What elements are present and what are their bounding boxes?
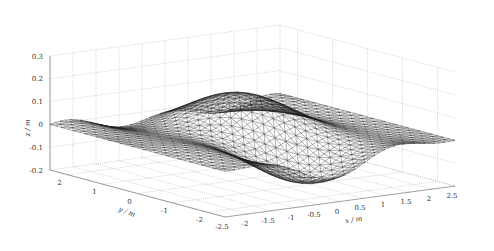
x-axis-label: x / m [344,215,363,226]
y-tick-label: 1 [92,188,96,196]
surface-mesh [50,92,455,183]
z-axis-label: z / m [24,119,32,137]
x-tick-label: -2 [242,220,249,228]
y-axis-label: y / m [116,205,136,219]
y-tick-label: -2 [196,216,203,224]
surface-plot: 0.30.20.10-0.1-0.2210-1-2-2.5-2-1.5-1-0.… [0,0,494,251]
y-tick-label: 0 [127,198,131,206]
y-tick-label: 2 [57,179,61,187]
x-tick-label: 1 [381,201,385,209]
x-tick-label: 1.5 [400,198,411,206]
x-tick-label: -1 [288,214,295,222]
z-tick-label: 0.1 [32,98,43,106]
z-tick-label: 0 [39,121,43,129]
x-tick-label: -0.5 [307,211,321,219]
x-tick-label: -2.5 [215,223,229,231]
z-tick-label: 0.2 [32,75,43,83]
z-tick-label: 0.3 [32,53,43,61]
x-tick-label: 2 [427,195,431,203]
z-tick-label: -0.1 [30,144,44,152]
x-tick-label: 0 [335,208,339,216]
x-tick-label: 2.5 [446,192,457,200]
axes-box [50,56,455,217]
x-tick-label: 0.5 [354,204,365,212]
x-tick-label: -1.5 [261,217,275,225]
y-tick-label: -1 [161,207,168,215]
triangulated-mesh [50,92,455,183]
z-tick-label: -0.2 [30,167,44,175]
